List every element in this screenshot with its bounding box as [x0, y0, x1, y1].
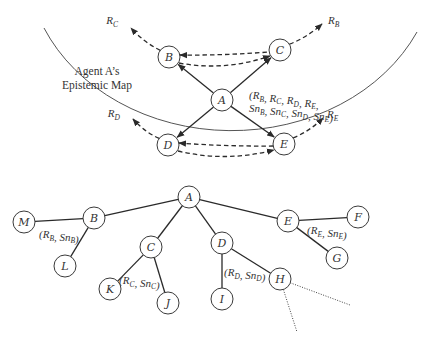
tree-node-L: L — [54, 255, 76, 277]
map-title-line1: Agent A’s — [74, 65, 120, 78]
dashed-link-B-C-lower — [179, 56, 270, 66]
external-arrow-C — [289, 24, 322, 44]
arrow-A-B — [178, 65, 213, 94]
tree-annotation-0: (RB, SnB) — [39, 228, 79, 246]
dotted-edge-H-1 — [283, 289, 297, 332]
tree-node-C: C — [140, 236, 162, 258]
tree-node-B: B — [83, 207, 105, 229]
label-RD: RD — [107, 107, 121, 122]
svg-text:M: M — [17, 216, 30, 229]
map-edges: RCRBRDRE — [105, 14, 339, 157]
svg-text:K: K — [105, 283, 115, 296]
tree-node-F: F — [347, 206, 369, 228]
tree-node-I: I — [211, 288, 233, 310]
dashed-link-D-E-upper — [179, 143, 273, 146]
label-RC: RC — [105, 14, 119, 29]
arrow-A-C — [230, 58, 271, 93]
map-annotation: (RB, RC, RD, RE,SnB, SnC, SnD, SnE) — [249, 89, 333, 125]
tree-node-E: E — [277, 210, 299, 232]
dashed-link-D-E-lower — [178, 150, 274, 157]
tree-edge-A-E — [200, 200, 278, 219]
map-node-D: D — [157, 134, 179, 156]
svg-text:A: A — [184, 191, 193, 204]
map-title-line2: Epistemic Map — [62, 79, 132, 92]
tree-node-G: G — [326, 247, 348, 269]
tree-node-D: D — [211, 232, 233, 254]
external-arrow-D — [133, 119, 159, 138]
svg-text:D: D — [163, 139, 173, 152]
tree-node-H: H — [269, 268, 291, 290]
svg-text:I: I — [219, 293, 225, 306]
label-RB: RB — [327, 14, 340, 29]
svg-text:L: L — [60, 260, 68, 273]
tree-annotations: (RB, SnB)(RC, SnC)(RD, SnD)(RE, SnE) — [39, 224, 347, 292]
map-node-A: A — [211, 89, 233, 111]
tree-edges — [35, 199, 350, 332]
epistemic-map-diagram: Agent A’s Epistemic Map RCRBRDRE ABCDE (… — [0, 0, 431, 342]
tree-edge-B-M — [35, 219, 83, 222]
tree-annotation-2: (RD, SnD) — [224, 266, 266, 284]
svg-text:C: C — [147, 241, 156, 254]
map-node-E: E — [273, 133, 295, 155]
svg-text:B: B — [89, 212, 98, 225]
svg-text:D: D — [217, 237, 227, 250]
arrow-A-D — [177, 107, 213, 137]
dashed-link-B-C-upper — [180, 52, 269, 55]
svg-text:F: F — [353, 211, 362, 224]
tree-edge-E-F — [299, 218, 347, 221]
tree-annotation-1: (RC, SnC) — [119, 274, 160, 292]
svg-text:E: E — [283, 215, 292, 228]
svg-text:J: J — [164, 297, 171, 310]
svg-text:C: C — [276, 44, 285, 57]
tree-edge-A-B — [105, 199, 179, 215]
tree-nodes: ABMLCKJDIHEFG — [13, 186, 369, 314]
svg-text:H: H — [274, 273, 285, 286]
dotted-edge-H-0 — [290, 283, 350, 305]
tree-edge-A-D — [195, 206, 215, 234]
tree-node-M: M — [13, 211, 35, 233]
tree-node-A: A — [178, 186, 200, 208]
svg-text:G: G — [333, 252, 342, 265]
svg-text:E: E — [279, 138, 288, 151]
map-node-B: B — [158, 46, 180, 68]
tree-edge-A-C — [158, 206, 183, 238]
external-arrow-B — [131, 28, 160, 50]
tree-node-J: J — [157, 292, 179, 314]
svg-text:A: A — [217, 94, 226, 107]
tree-node-K: K — [99, 278, 121, 300]
svg-text:B: B — [164, 51, 173, 64]
map-node-C: C — [269, 39, 291, 61]
